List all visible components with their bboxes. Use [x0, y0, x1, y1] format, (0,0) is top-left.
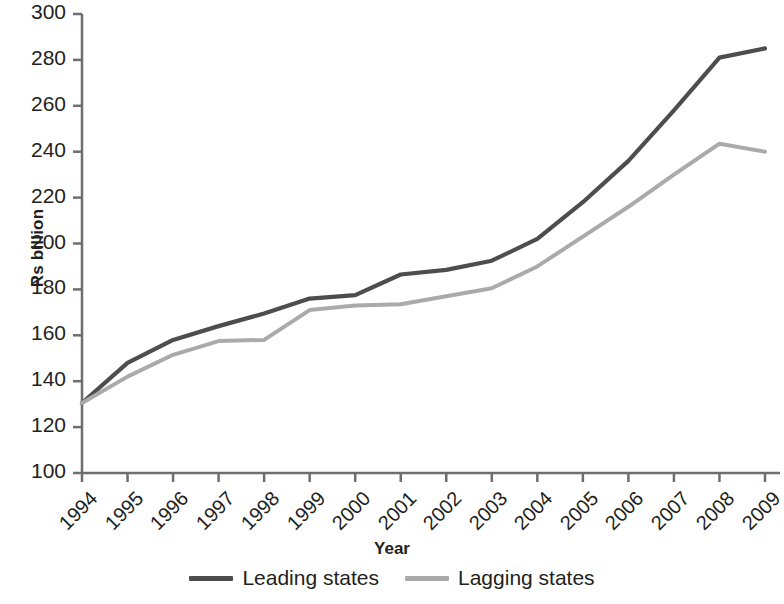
legend-swatch-icon — [189, 576, 233, 581]
chart-legend: Leading statesLagging states — [0, 566, 784, 590]
x-axis-ticks — [82, 473, 765, 482]
legend-label: Leading states — [242, 566, 379, 590]
legend-label: Lagging states — [458, 566, 595, 590]
line-chart-figure: Rs billion 10012014016018020022024026028… — [0, 0, 784, 604]
data-series-lines — [82, 48, 765, 403]
legend-swatch-icon — [405, 576, 449, 581]
legend-item[interactable]: Lagging states — [405, 566, 595, 590]
legend-item[interactable]: Leading states — [189, 566, 379, 590]
axis-lines — [82, 14, 780, 473]
x-axis-title: Year — [0, 539, 784, 559]
plot-area — [0, 0, 784, 604]
